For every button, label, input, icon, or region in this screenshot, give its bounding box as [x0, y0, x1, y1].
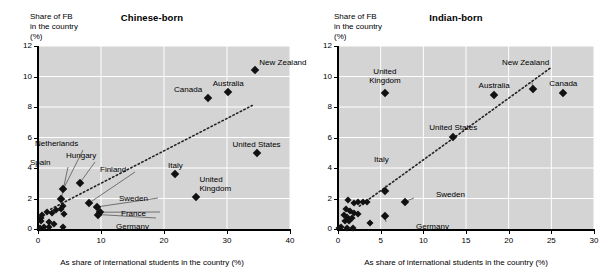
- data-point-label: Canada: [513, 79, 608, 88]
- y-axis-tick-label: 4: [6, 163, 32, 172]
- y-axis-tick: [34, 107, 38, 108]
- data-point-label: New Zealand: [502, 58, 549, 67]
- y-axis-tick: [34, 77, 38, 78]
- y-axis-tick: [334, 168, 338, 169]
- data-point-label: New Zealand: [259, 58, 306, 67]
- y-axis-tick-label: 12: [6, 41, 32, 50]
- x-axis-tick-label: 0: [323, 236, 353, 245]
- data-point-label: Sweden: [436, 190, 465, 199]
- y-axis-tick-label: 4: [306, 163, 332, 172]
- x-axis-tick-label: 5: [366, 236, 396, 245]
- data-point-label: United Kingdom: [335, 67, 435, 85]
- x-axis-tick: [551, 230, 552, 234]
- x-axis-tick-label: 15: [451, 236, 481, 245]
- x-axis-tick: [227, 230, 228, 234]
- x-axis-tick-label: 25: [536, 236, 566, 245]
- y-axis-tick: [334, 199, 338, 200]
- x-axis-tick: [466, 230, 467, 234]
- x-axis-label: As share of international students in th…: [304, 258, 608, 267]
- data-point-label: Germany: [116, 222, 149, 231]
- data-point-label: Netherlands: [35, 139, 78, 148]
- x-axis-tick: [509, 230, 510, 234]
- x-axis-tick-label: 0: [23, 236, 53, 245]
- y-axis-tick-label: 6: [306, 133, 332, 142]
- y-axis-tick-label: 12: [306, 41, 332, 50]
- data-point-label: Canada: [102, 85, 202, 94]
- y-axis-tick-label: 0: [306, 224, 332, 233]
- y-axis-label: Share of FB in the country (%): [30, 12, 78, 42]
- y-axis-tick-label: 8: [306, 102, 332, 111]
- x-axis-tick-label: 30: [579, 236, 608, 245]
- figure-container: Chinese-born Share of FB in the country …: [0, 0, 608, 273]
- x-axis-tick-label: 20: [149, 236, 179, 245]
- x-axis-tick-label: 10: [408, 236, 438, 245]
- x-axis-label: As share of international students in th…: [0, 258, 304, 267]
- data-point-label: Italy: [374, 155, 389, 164]
- x-axis-tick-label: 20: [494, 236, 524, 245]
- data-point-label: Germany: [416, 222, 449, 231]
- y-axis-tick-label: 10: [306, 72, 332, 81]
- x-axis-tick: [101, 230, 102, 234]
- plot-background: [38, 46, 290, 229]
- y-axis-tick: [334, 46, 338, 47]
- x-axis-tick: [164, 230, 165, 234]
- y-axis-tick: [334, 107, 338, 108]
- y-axis-tick-label: 8: [6, 102, 32, 111]
- y-axis-tick: [334, 138, 338, 139]
- y-axis-tick: [34, 199, 38, 200]
- data-point-label: Finland: [100, 165, 126, 174]
- data-point-label: United States: [403, 123, 503, 132]
- x-axis-tick: [381, 230, 382, 234]
- data-point-label: Hungary: [66, 151, 96, 160]
- data-point-label: France: [121, 209, 146, 218]
- chart-panel-chinese-born: Chinese-born Share of FB in the country …: [0, 0, 304, 273]
- data-point-label: United States: [207, 140, 307, 149]
- y-axis-tick: [34, 168, 38, 169]
- y-axis-tick-label: 2: [306, 194, 332, 203]
- x-axis-tick: [594, 230, 595, 234]
- x-axis-tick-label: 30: [212, 236, 242, 245]
- y-axis-tick: [34, 46, 38, 47]
- x-axis-tick-label: 10: [86, 236, 116, 245]
- y-axis-tick-label: 6: [6, 133, 32, 142]
- data-point-label: Sweden: [119, 194, 148, 203]
- y-axis-label: Share of FB in the country (%): [334, 12, 382, 42]
- chart-panel-indian-born: Indian-born Share of FB in the country (…: [304, 0, 608, 273]
- x-axis-tick-label: 40: [275, 236, 305, 245]
- y-axis-tick-label: 2: [6, 194, 32, 203]
- data-point-label: Italy: [125, 161, 225, 170]
- data-point-label: Spain: [30, 158, 50, 167]
- data-point-label: United Kingdom: [200, 175, 232, 193]
- y-axis-tick-label: 0: [6, 224, 32, 233]
- y-axis-tick-label: 10: [6, 72, 32, 81]
- x-axis-tick: [290, 230, 291, 234]
